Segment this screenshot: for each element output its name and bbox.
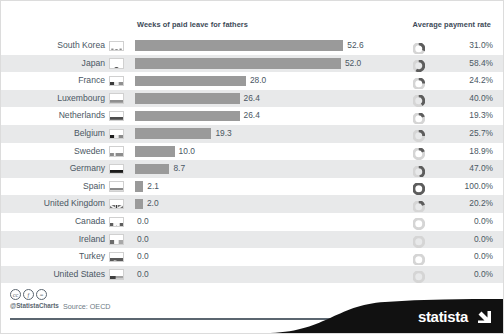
country-label: Japan [1,55,105,73]
table-row[interactable]: Belgium19.325.7% [1,125,504,143]
weeks-value: 19.3 [215,125,231,143]
creative-commons-icons: cc ƒ = [10,289,47,300]
flag-canada-icon [109,217,124,227]
payment-rate-donut [413,216,425,228]
weeks-bar [135,199,143,210]
footer: cc ƒ = @StatistaCharts Source: OECD stat… [1,285,504,333]
table-row[interactable]: Spain2.1100.0% [1,178,504,196]
table-row[interactable]: Germany8.747.0% [1,160,504,178]
country-label: Canada [1,213,105,231]
payment-rate-donut [413,146,425,158]
payment-rate-donut-icon [413,130,425,142]
payment-rate-donut-icon [413,43,425,55]
statista-infographic: Weeks of paid leave for fathers Average … [0,0,504,334]
flag-united-kingdom-icon [109,199,124,209]
country-label: Germany [1,160,105,178]
payment-rate-donut [413,128,425,140]
flag-belgium-icon [109,129,124,139]
weeks-value: 0.0 [137,266,149,284]
table-row[interactable]: Luxembourg26.440.0% [1,90,504,108]
statista-logo-text: statista [418,308,468,325]
weeks-bar [135,111,240,122]
weeks-bar [135,181,143,192]
table-row[interactable]: United States0.00.0% [1,266,504,284]
country-label: Spain [1,178,105,196]
weeks-value: 26.4 [244,90,260,108]
payment-rate-value: 0.0% [429,231,493,249]
payment-rate-donut [413,251,425,263]
payment-rate-donut [413,269,425,281]
chart-rows: South Korea52.631.0%Japan52.058.4%France… [1,37,504,283]
weeks-value: 10.0 [179,143,195,161]
cc-icon: cc [10,289,21,300]
flag-spain-icon [109,181,124,191]
flag-luxembourg-icon [109,93,124,103]
payment-rate-donut-icon [413,236,425,248]
weeks-value: 8.7 [173,160,185,178]
statista-handle: @StatistaCharts [10,302,59,309]
country-label: Luxembourg [1,90,105,108]
table-row[interactable]: France28.024.2% [1,72,504,90]
payment-rate-value: 24.2% [429,72,493,90]
table-row[interactable]: Sweden10.018.9% [1,143,504,161]
flag-france-icon [109,76,124,86]
statista-arrow-icon [477,310,492,324]
payment-rate-donut [413,110,425,122]
weeks-bar [135,93,240,104]
flag-turkey-icon [109,252,124,262]
payment-rate-donut [413,75,425,87]
payment-rate-donut-icon [413,60,425,72]
payment-rate-donut-icon [413,201,425,213]
table-row[interactable]: South Korea52.631.0% [1,37,504,55]
payment-rate-value: 0.0% [429,213,493,231]
payment-rate-value: 19.3% [429,107,493,125]
payment-rate-donut-icon [413,183,425,195]
payment-rate-value: 47.0% [429,160,493,178]
payment-rate-donut [413,93,425,105]
payment-rate-donut-icon [413,254,425,266]
country-label: United Kingdom [1,195,105,213]
country-label: Sweden [1,143,105,161]
payment-rate-donut [413,234,425,246]
weeks-value: 0.0 [137,213,149,231]
nd-icon: = [36,289,47,300]
payment-rate-value: 25.7% [429,125,493,143]
payment-rate-donut-icon [413,95,425,107]
payment-rate-value: 40.0% [429,90,493,108]
weeks-bar [135,58,341,69]
flag-germany-icon [109,164,124,174]
table-row[interactable]: Netherlands26.419.3% [1,107,504,125]
payment-rate-donut [413,163,425,175]
weeks-value: 26.4 [244,107,260,125]
flag-south-korea-icon [109,41,124,51]
weeks-value: 0.0 [137,248,149,266]
country-label: Ireland [1,231,105,249]
payment-rate-value: 0.0% [429,266,493,284]
table-row[interactable]: United Kingdom2.020.2% [1,195,504,213]
weeks-bar [135,76,246,87]
payment-rate-donut-icon [413,218,425,230]
payment-rate-donut-icon [413,271,425,283]
table-row[interactable]: Japan52.058.4% [1,55,504,73]
payment-rate-donut-icon [413,113,425,125]
weeks-value: 0.0 [137,231,149,249]
statista-swoosh-shape [265,299,504,333]
country-label: Netherlands [1,107,105,125]
country-label: France [1,72,105,90]
column-header-weeks: Weeks of paid leave for fathers [137,20,248,29]
payment-rate-donut [413,198,425,210]
table-row[interactable]: Turkey0.00.0% [1,248,504,266]
payment-rate-donut-icon [413,78,425,90]
payment-rate-donut [413,40,425,52]
flag-japan-icon [109,58,124,68]
payment-rate-value: 20.2% [429,195,493,213]
payment-rate-donut-icon [413,148,425,160]
payment-rate-donut [413,181,425,193]
payment-rate-donut [413,58,425,70]
weeks-value: 52.6 [347,37,363,55]
table-row[interactable]: Ireland0.00.0% [1,231,504,249]
payment-rate-value: 31.0% [429,37,493,55]
weeks-bar [135,128,211,139]
table-row[interactable]: Canada0.00.0% [1,213,504,231]
weeks-value: 52.0 [345,55,361,73]
